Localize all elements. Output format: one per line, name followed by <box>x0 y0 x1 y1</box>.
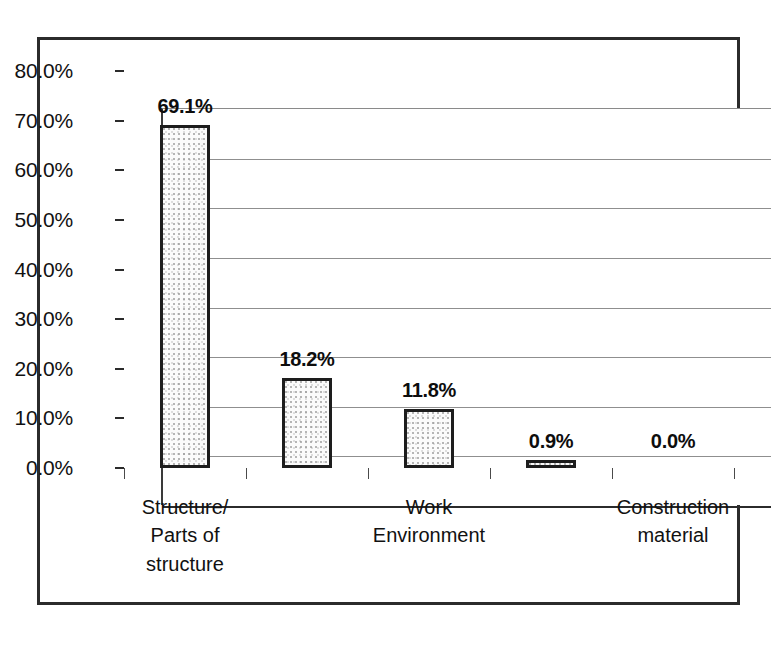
category-label-line: Construction <box>617 493 729 521</box>
y-axis-tick-label: 80.0% <box>14 59 73 83</box>
category-label-line: Environment <box>373 521 485 549</box>
gridline <box>163 456 771 457</box>
y-axis-tick-mark <box>115 467 124 469</box>
bar <box>160 125 210 468</box>
y-axis-tick-label: 10.0% <box>14 406 73 430</box>
bar-value-label: 0.9% <box>529 430 573 453</box>
y-axis-tick-mark <box>115 368 124 370</box>
y-axis-tick-mark <box>115 269 124 271</box>
bar <box>404 409 454 468</box>
gridline <box>163 258 771 259</box>
bar-value-label: 11.8% <box>402 379 456 402</box>
category-label-line: Parts of <box>142 521 229 549</box>
x-axis-category-label: Structure/Parts ofstructure <box>142 493 229 578</box>
x-axis-tick-mark <box>124 468 125 479</box>
gridline <box>163 159 771 160</box>
bar <box>282 378 332 468</box>
x-axis-tick-mark <box>490 468 491 479</box>
category-label-line: material <box>617 521 729 549</box>
gridline <box>163 357 771 358</box>
bar <box>526 460 576 468</box>
bar-value-label: 69.1% <box>157 95 212 118</box>
y-axis-tick-label: 50.0% <box>14 208 73 232</box>
x-axis-tick-mark <box>368 468 369 479</box>
y-axis-tick-label: 60.0% <box>14 158 73 182</box>
y-axis-tick-label: 0.0% <box>26 456 73 480</box>
bar-value-label: 0.0% <box>651 430 695 453</box>
y-axis-tick-label: 70.0% <box>14 109 73 133</box>
x-axis-category-label: WorkEnvironment <box>373 493 485 550</box>
x-axis-tick-mark <box>246 468 247 479</box>
y-axis-tick-label: 40.0% <box>14 258 73 282</box>
y-axis-tick-mark <box>115 219 124 221</box>
y-axis-tick-mark <box>115 417 124 419</box>
category-label-line: Structure/ <box>142 493 229 521</box>
gridline <box>163 308 771 309</box>
y-axis-tick-mark <box>115 120 124 122</box>
y-axis-tick-label: 30.0% <box>14 307 73 331</box>
gridline <box>163 407 771 408</box>
y-axis-tick-mark <box>115 318 124 320</box>
y-axis-tick-mark <box>115 70 124 72</box>
x-axis-tick-mark <box>734 468 735 479</box>
bar-value-label: 18.2% <box>279 348 334 371</box>
gridline <box>163 208 771 209</box>
chart-outer-frame: 0.0%10.0%20.0%30.0%40.0%50.0%60.0%70.0%8… <box>37 37 740 605</box>
x-axis-tick-mark <box>612 468 613 479</box>
y-axis-tick-mark <box>115 169 124 171</box>
y-axis-tick-label: 20.0% <box>14 357 73 381</box>
category-label-line: structure <box>142 550 229 578</box>
x-axis-category-label: Constructionmaterial <box>617 493 729 550</box>
category-label-line: Work <box>373 493 485 521</box>
